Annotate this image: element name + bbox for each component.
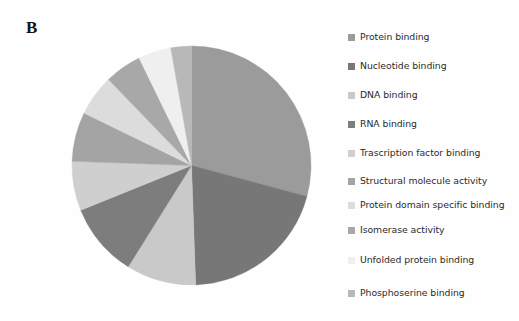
pie-slice-group [72, 46, 311, 285]
legend-item[interactable]: Isomerase activity [348, 224, 516, 236]
legend-swatch-icon [348, 63, 355, 70]
legend-item[interactable]: Protein binding [348, 31, 516, 43]
pie-chart [71, 45, 312, 286]
legend-item-label: Nucleotide binding [360, 60, 447, 72]
legend-swatch-icon [348, 227, 355, 234]
legend-swatch-icon [348, 34, 355, 41]
legend-swatch-icon [348, 92, 355, 99]
legend-item-label: Trascription factor binding [360, 147, 480, 159]
legend-swatch-icon [348, 178, 355, 185]
legend-item[interactable]: Protein domain specific binding [348, 199, 516, 211]
legend-item-label: Protein binding [360, 31, 429, 43]
legend-item[interactable]: Trascription factor binding [348, 147, 516, 159]
legend-item-label: Unfolded protein binding [360, 254, 474, 266]
legend-item-label: Phosphoserine binding [360, 287, 465, 299]
legend-item-label: Protein domain specific binding [360, 199, 505, 211]
legend-swatch-icon [348, 257, 355, 264]
legend-item-label: RNA binding [360, 118, 417, 130]
legend-item-label: Structural molecule activity [360, 175, 487, 187]
legend-item[interactable]: RNA binding [348, 118, 516, 130]
pie-chart-svg [71, 45, 312, 286]
legend-swatch-icon [348, 202, 355, 209]
chart-legend: Protein bindingNucleotide bindingDNA bin… [348, 31, 516, 301]
legend-item[interactable]: DNA binding [348, 89, 516, 101]
legend-swatch-icon [348, 121, 355, 128]
legend-item-label: DNA binding [360, 89, 418, 101]
legend-item-label: Isomerase activity [360, 224, 444, 236]
panel-label: B [26, 18, 38, 38]
legend-item[interactable]: Structural molecule activity [348, 175, 516, 187]
legend-item[interactable]: Unfolded protein binding [348, 254, 516, 266]
legend-swatch-icon [348, 150, 355, 157]
legend-item[interactable]: Phosphoserine binding [348, 287, 516, 299]
legend-item[interactable]: Nucleotide binding [348, 60, 516, 72]
legend-swatch-icon [348, 290, 355, 297]
figure-panel: B Protein bindingNucleotide bindingDNA b… [0, 0, 519, 321]
